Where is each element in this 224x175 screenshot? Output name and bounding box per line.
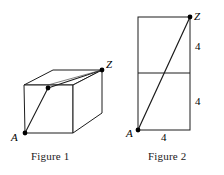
figure-1-cube — [23, 68, 105, 136]
figure1-caption: Figure 1 — [31, 150, 70, 162]
figures-illustration — [0, 0, 224, 175]
cube-front-face — [24, 85, 73, 133]
cube-point-Z — [100, 68, 105, 73]
figure1-vertex-label-a: A — [11, 131, 18, 143]
cube-point-A — [23, 131, 28, 136]
figure2-vertex-label-a: A — [126, 127, 133, 139]
figure1-vertex-label-z: Z — [106, 58, 112, 70]
rect-point-Z — [188, 15, 193, 20]
cube-point-midpoint — [46, 86, 51, 91]
figure2-dimension-right-bottom: 4 — [195, 95, 201, 107]
figure2-dimension-right-top: 4 — [195, 40, 201, 52]
figure-2-rectangle — [136, 15, 193, 133]
figure2-vertex-label-z: Z — [194, 10, 200, 22]
rect-point-A — [136, 128, 141, 133]
figure2-caption: Figure 2 — [148, 150, 187, 162]
figure2-dimension-bottom: 4 — [161, 131, 167, 143]
